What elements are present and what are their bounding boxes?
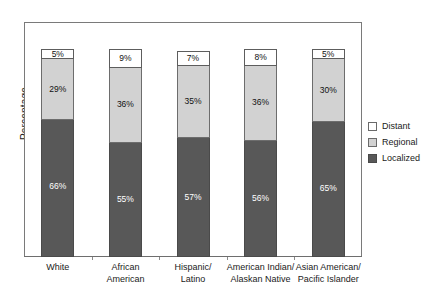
legend-label: Localized [382, 153, 420, 163]
bar-segment-value: 5% [52, 50, 64, 59]
bar-segment-value: 36% [117, 100, 134, 109]
bar-segment-regional: 36% [244, 66, 277, 141]
stacked-bar: 9%36%55% [109, 49, 142, 257]
bar-segment-value: 55% [110, 195, 141, 204]
stacked-bar: 7%35%57% [177, 51, 210, 257]
legend-swatch-icon [368, 138, 377, 147]
bar-segment-regional: 35% [177, 66, 210, 139]
x-axis-tick [227, 257, 228, 260]
bar-segment-value: 35% [184, 97, 201, 106]
legend-label: Distant [382, 121, 410, 131]
stacked-bar: 5%30%65% [312, 49, 345, 257]
bar-segment-regional: 29% [41, 59, 74, 119]
x-axis-tick-label: American Indian/Alaskan Native [227, 262, 295, 285]
x-axis-tick-label: AfricanAmerican [92, 262, 160, 285]
legend-item-localized[interactable]: Localized [368, 153, 420, 163]
bar-segment-value: 9% [119, 54, 131, 63]
bar-segment-distant: 9% [109, 49, 142, 68]
x-axis-tick [294, 257, 295, 260]
bar-segment-distant: 5% [312, 49, 345, 59]
x-axis-tick-label: Asian American/Pacific Islander [294, 262, 362, 285]
bar-segment-localized: 66% [41, 120, 74, 257]
x-axis-tick-label: White [24, 262, 92, 274]
legend-swatch-icon [368, 154, 377, 163]
chart-legend: DistantRegionalLocalized [368, 121, 420, 163]
bar-segment-value: 8% [254, 53, 266, 62]
bar-segment-value: 29% [49, 85, 66, 94]
bar-segment-localized: 56% [244, 141, 277, 257]
bar-segment-distant: 7% [177, 51, 210, 66]
x-axis-tick [159, 257, 160, 260]
bar-segment-value: 7% [187, 54, 199, 63]
bar-segment-value: 65% [313, 184, 344, 193]
bar-segment-value: 56% [245, 194, 276, 203]
bar-segment-value: 36% [252, 98, 269, 107]
bar-segment-localized: 55% [109, 143, 142, 257]
bar-segment-regional: 30% [312, 59, 345, 121]
bar-segment-value: 66% [42, 182, 73, 191]
legend-item-regional[interactable]: Regional [368, 137, 420, 147]
chart-figure: Percentage 5%29%66%9%36%55%7%35%57%8%36%… [0, 0, 434, 300]
legend-item-distant[interactable]: Distant [368, 121, 420, 131]
bar-segment-localized: 57% [177, 138, 210, 257]
bar-segment-value: 57% [178, 193, 209, 202]
legend-swatch-icon [368, 122, 377, 131]
x-axis-tick-label: Hispanic/Latino [159, 262, 227, 285]
bar-segment-distant: 5% [41, 49, 74, 59]
bar-segment-localized: 65% [312, 122, 345, 257]
bar-segment-regional: 36% [109, 68, 142, 143]
stacked-bar: 8%36%56% [244, 49, 277, 257]
stacked-bar: 5%29%66% [41, 49, 74, 257]
x-axis-tick [92, 257, 93, 260]
bar-segment-distant: 8% [244, 49, 277, 66]
legend-label: Regional [382, 137, 418, 147]
bar-segment-value: 30% [320, 86, 337, 95]
bar-segment-value: 5% [322, 50, 334, 59]
